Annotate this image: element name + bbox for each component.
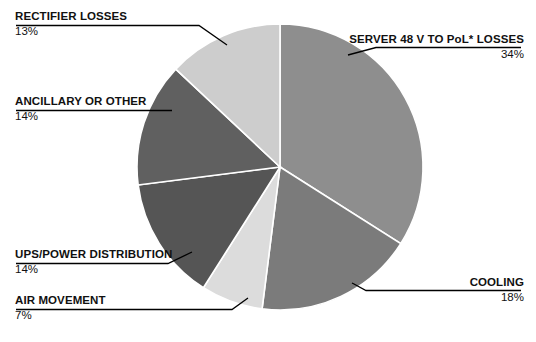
callout-percent-ups-power-distribution: 14% (15, 261, 172, 276)
callout-ancillary-or-other: ANCILLARY OR OTHER 14% (15, 95, 147, 123)
callout-percent-rectifier-losses: 13% (15, 23, 127, 38)
callout-rectifier-losses: RECTIFIER LOSSES 13% (15, 10, 127, 38)
callout-label-ups-power-distribution: UPS/POWER DISTRIBUTION (15, 248, 172, 261)
callout-label-air-movement: AIR MOVEMENT (15, 294, 106, 307)
callout-percent-air-movement: 7% (15, 307, 106, 322)
callout-label-server-48v-to-pol-losses: SERVER 48 V TO PoL* LOSSES (349, 33, 524, 46)
callout-cooling: COOLING 18% (470, 276, 524, 304)
callout-ups-power-distribution: UPS/POWER DISTRIBUTION 14% (15, 248, 172, 276)
callout-percent-ancillary-or-other: 14% (15, 108, 147, 123)
callout-percent-server-48v-to-pol-losses: 34% (349, 46, 524, 61)
callout-label-ancillary-or-other: ANCILLARY OR OTHER (15, 95, 147, 108)
callout-label-rectifier-losses: RECTIFIER LOSSES (15, 10, 127, 23)
callout-air-movement: AIR MOVEMENT 7% (15, 294, 106, 322)
pie-slices (137, 24, 423, 310)
callout-server-48v-to-pol-losses: SERVER 48 V TO PoL* LOSSES 34% (349, 33, 524, 61)
callout-label-cooling: COOLING (470, 276, 524, 289)
pie-chart: RECTIFIER LOSSES 13% ANCILLARY OR OTHER … (0, 0, 536, 342)
callout-percent-cooling: 18% (470, 289, 524, 304)
